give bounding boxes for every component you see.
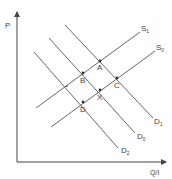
point-a-label: A [97,63,103,72]
point-d-label: D [80,105,86,114]
y-axis-label: P [5,21,10,30]
supply-demand-diagram: P Q/I S1 S0 D1 D0 D2 A B C X D [0,0,172,179]
x-axis-label: Q/I [150,169,159,177]
label-d0: D0 [137,132,146,142]
point-b-marker [82,72,85,75]
point-b-label: B [80,76,85,85]
point-c-marker [116,77,119,80]
label-s0: S0 [156,43,164,53]
point-unlabeled-marker [66,85,68,87]
point-d-marker [82,101,85,104]
point-x-marker [99,89,102,92]
supply-curve-s1 [36,32,140,108]
point-a-marker [99,60,102,63]
point-x-label: X [97,93,103,102]
label-s1: S1 [141,24,149,34]
label-d1: D1 [154,117,163,127]
label-d2: D2 [121,146,130,156]
point-c-label: C [114,81,120,90]
